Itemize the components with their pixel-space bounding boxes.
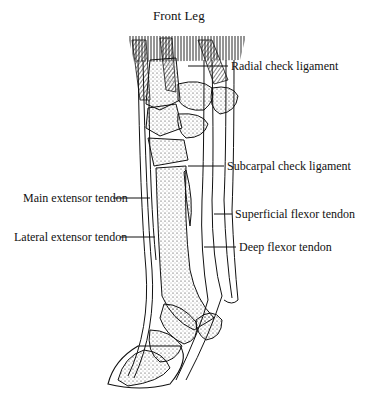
label-radial-check-ligament: Radial check ligament	[231, 59, 338, 73]
label-main-extensor-tendon: Main extensor tendon	[23, 191, 128, 205]
label-lateral-extensor-tendon: Lateral extensor tendon	[14, 230, 127, 244]
label-subcarpal-check-ligament: Subcarpal check ligament	[227, 159, 351, 173]
label-deep-flexor-tendon: Deep flexor tendon	[239, 240, 332, 254]
leg-bones	[118, 58, 238, 386]
label-superficial-flexor-tendon: Superficial flexor tendon	[235, 207, 355, 221]
